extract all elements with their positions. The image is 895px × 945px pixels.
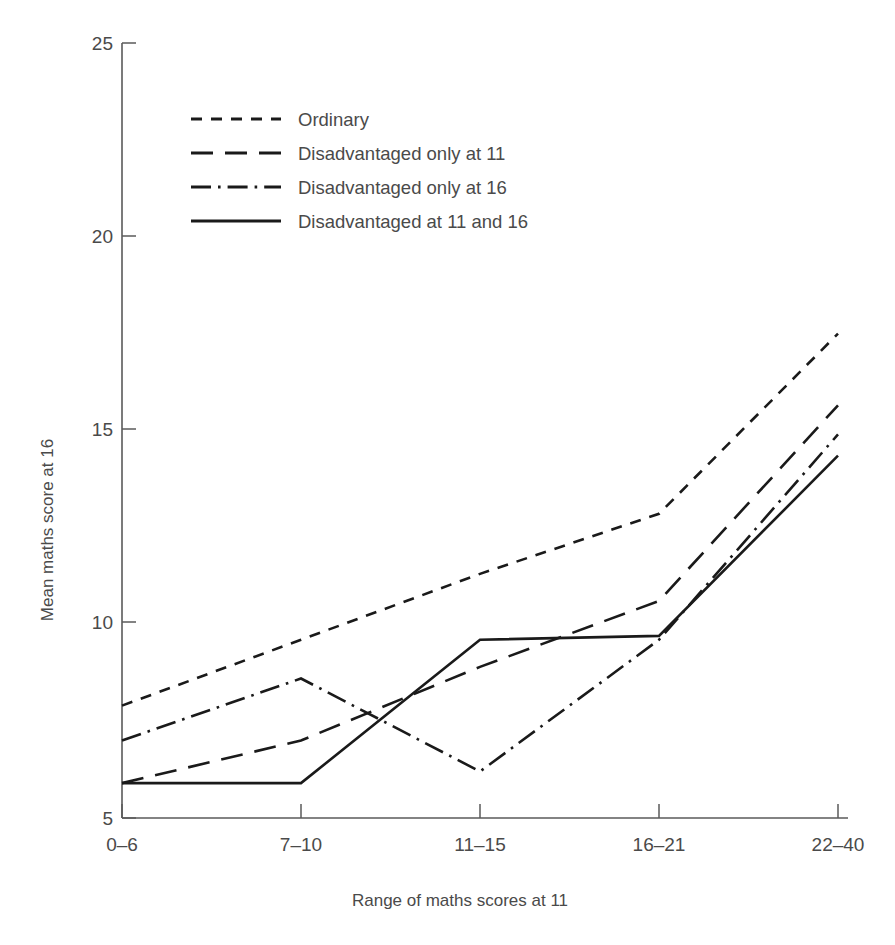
x-tick-label-11-15: 11–15 (454, 834, 505, 855)
y-tick-label-15: 15 (92, 419, 113, 440)
x-axis-title: Range of maths scores at 11 (352, 891, 568, 910)
y-tick-label-5: 5 (102, 808, 113, 829)
y-tick-label-20: 20 (92, 226, 113, 247)
legend-item-ordinary: Ordinary (191, 109, 370, 130)
chart-legend: Ordinary Disadvantaged only at 11 Disadv… (191, 109, 528, 232)
chart-figure: 25 20 15 10 5 0–6 7–10 11–15 16–21 22–40… (0, 0, 895, 945)
x-axis-ticks (122, 804, 838, 818)
series-line-disadvantaged-only-at-16 (122, 434, 838, 771)
x-tick-label-16-21: 16–21 (633, 834, 686, 855)
series-group (122, 334, 838, 784)
y-axis-title: Mean maths score at 16 (38, 439, 57, 621)
legend-item-disadvantaged-only-at-11: Disadvantaged only at 11 (191, 143, 505, 164)
y-tick-label-10: 10 (92, 612, 113, 633)
x-tick-label-0-6: 0–6 (106, 834, 138, 855)
x-tick-label-7-10: 7–10 (280, 834, 322, 855)
x-tick-label-22-40: 22–40 (812, 834, 865, 855)
legend-item-disadvantaged-only-at-16: Disadvantaged only at 16 (191, 177, 507, 198)
legend-label-disadvantaged-at-11-and-16: Disadvantaged at 11 and 16 (298, 211, 528, 232)
legend-label-ordinary: Ordinary (298, 109, 370, 130)
y-tick-label-25: 25 (92, 33, 113, 54)
series-line-disadvantaged-at-11-and-16 (122, 456, 838, 783)
series-line-ordinary (122, 334, 838, 706)
legend-label-disadvantaged-only-at-11: Disadvantaged only at 11 (298, 143, 505, 164)
line-chart: 25 20 15 10 5 0–6 7–10 11–15 16–21 22–40… (0, 0, 895, 945)
series-line-disadvantaged-only-at-11 (122, 405, 838, 783)
legend-item-disadvantaged-at-11-and-16: Disadvantaged at 11 and 16 (191, 211, 528, 232)
legend-label-disadvantaged-only-at-16: Disadvantaged only at 16 (298, 177, 507, 198)
